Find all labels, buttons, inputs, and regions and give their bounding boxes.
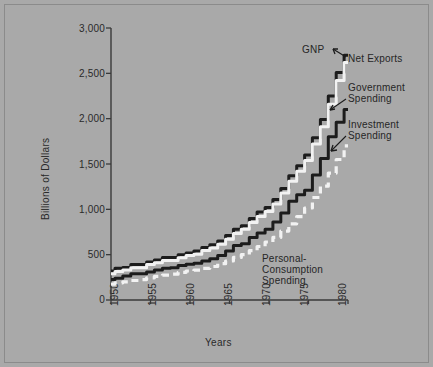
series-line-net-exports (111, 63, 348, 274)
chart-figure: 3,000 2,500 2,000 1,500 1,000 500 0 1950… (0, 0, 433, 367)
data-series-layer (111, 55, 348, 284)
series-line-government-spending (111, 110, 348, 280)
axis-lines (111, 28, 348, 300)
y-axis-ticks (106, 28, 111, 300)
chart-plot-area (0, 0, 433, 367)
